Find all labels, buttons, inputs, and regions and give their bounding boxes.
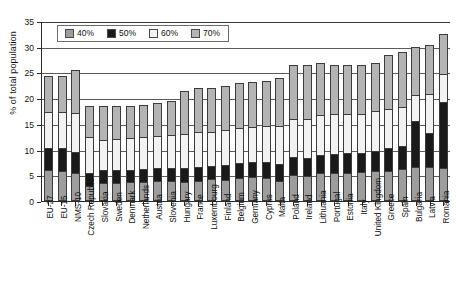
bar-segment-70 bbox=[426, 46, 433, 95]
chart-root: % of total population 05101520253035 EU-… bbox=[0, 0, 457, 289]
stacked-bar bbox=[58, 76, 67, 201]
bar-segment-50 bbox=[140, 170, 147, 183]
bar-segment-70 bbox=[127, 107, 134, 138]
bar-segment-50 bbox=[168, 169, 175, 182]
bar-segment-60 bbox=[331, 115, 338, 155]
x-label-cell: Austria bbox=[150, 207, 164, 287]
bar-segment-60 bbox=[276, 127, 283, 165]
bar-column bbox=[355, 22, 369, 201]
bar-segment-60 bbox=[127, 139, 134, 171]
bar-column bbox=[327, 22, 341, 201]
legend-item-50: 50% bbox=[107, 29, 136, 38]
x-label-cell: Malta bbox=[273, 207, 287, 287]
x-label-cell: Latvia bbox=[423, 207, 437, 287]
bar-segment-70 bbox=[100, 107, 107, 141]
legend-item-40: 40% bbox=[65, 29, 94, 38]
y-tick-label: 5 bbox=[12, 172, 34, 181]
bar-segment-70 bbox=[399, 53, 406, 108]
bar-segment-60 bbox=[181, 135, 188, 168]
bar-segment-50 bbox=[59, 149, 66, 172]
bar-segment-60 bbox=[100, 141, 107, 171]
bar-column bbox=[69, 22, 83, 201]
stacked-bar bbox=[180, 91, 189, 201]
bar-column bbox=[273, 22, 287, 201]
bar-segment-60 bbox=[249, 128, 256, 163]
bar-segment-50 bbox=[263, 163, 270, 179]
x-tick-label: Romania bbox=[443, 191, 451, 224]
bar-column bbox=[246, 22, 260, 201]
bar-segment-60 bbox=[426, 95, 433, 134]
x-label-cell: NMS-10 bbox=[68, 207, 82, 287]
bar-segment-50 bbox=[344, 154, 351, 174]
bar-segment-60 bbox=[263, 127, 270, 163]
bar-segment-50 bbox=[113, 171, 120, 184]
bar-segment-60 bbox=[222, 131, 229, 166]
legend-swatch bbox=[191, 29, 200, 38]
stacked-bar bbox=[398, 52, 407, 201]
bar-segment-70 bbox=[222, 87, 229, 131]
bar-segment-60 bbox=[344, 115, 351, 154]
x-label-cell: Bulgaria bbox=[409, 207, 423, 287]
legend-label: 40% bbox=[77, 29, 94, 38]
bar-segment-50 bbox=[154, 169, 161, 182]
legend-label: 60% bbox=[161, 29, 178, 38]
bar-segment-50 bbox=[331, 155, 338, 175]
bar-segment-50 bbox=[290, 158, 297, 177]
bar-column bbox=[382, 22, 396, 201]
bar-segment-70 bbox=[154, 104, 161, 137]
bar-segment-70 bbox=[358, 66, 365, 115]
bar-segment-70 bbox=[140, 106, 147, 138]
bar-segment-70 bbox=[304, 66, 311, 119]
bar-segment-70 bbox=[412, 48, 419, 96]
bar-column bbox=[287, 22, 301, 201]
stacked-bar bbox=[99, 106, 108, 201]
bar-column bbox=[314, 22, 328, 201]
y-tick-label: 30 bbox=[12, 44, 34, 53]
stacked-bar bbox=[275, 78, 284, 201]
bar-segment-50 bbox=[72, 153, 79, 175]
y-tick-label: 25 bbox=[12, 69, 34, 78]
bar-segment-50 bbox=[208, 167, 215, 180]
bar-segment-60 bbox=[304, 120, 311, 159]
plot-area bbox=[41, 22, 450, 202]
bar-segment-50 bbox=[249, 163, 256, 178]
bar-segment-50 bbox=[440, 103, 447, 169]
x-label-cell: Romania bbox=[437, 207, 451, 287]
bar-segment-60 bbox=[140, 138, 147, 170]
stacked-bar bbox=[44, 76, 53, 201]
bar-series bbox=[42, 22, 450, 201]
bar-segment-50 bbox=[222, 166, 229, 181]
bar-column bbox=[409, 22, 423, 201]
stacked-bar bbox=[221, 86, 230, 201]
x-label-cell: Estonia bbox=[341, 207, 355, 287]
stacked-bar bbox=[71, 70, 80, 201]
stacked-bar bbox=[126, 106, 135, 201]
bar-segment-70 bbox=[263, 82, 270, 127]
legend-swatch bbox=[65, 29, 74, 38]
bar-column bbox=[232, 22, 246, 201]
bar-segment-60 bbox=[59, 113, 66, 149]
bar-segment-70 bbox=[290, 66, 297, 119]
x-label-cell: Luxembourg bbox=[205, 207, 219, 287]
bar-segment-70 bbox=[372, 64, 379, 112]
bar-segment-60 bbox=[208, 133, 215, 167]
y-tick-label: 35 bbox=[12, 18, 34, 27]
bar-column bbox=[42, 22, 56, 201]
bar-column bbox=[300, 22, 314, 201]
stacked-bar bbox=[167, 101, 176, 201]
x-label-cell: Spain bbox=[396, 207, 410, 287]
x-label-cell: Portugal bbox=[327, 207, 341, 287]
y-tick-label: 20 bbox=[12, 95, 34, 104]
bar-column bbox=[219, 22, 233, 201]
bar-segment-50 bbox=[276, 165, 283, 181]
bar-column bbox=[56, 22, 70, 201]
bar-segment-60 bbox=[290, 120, 297, 158]
x-label-cell: Belgium bbox=[232, 207, 246, 287]
bar-segment-70 bbox=[276, 79, 283, 127]
stacked-bar bbox=[248, 82, 257, 201]
legend-item-60: 60% bbox=[149, 29, 178, 38]
bar-segment-70 bbox=[317, 64, 324, 116]
bar-column bbox=[137, 22, 151, 201]
x-label-cell: EU-15 bbox=[55, 207, 69, 287]
stacked-bar bbox=[289, 65, 298, 201]
